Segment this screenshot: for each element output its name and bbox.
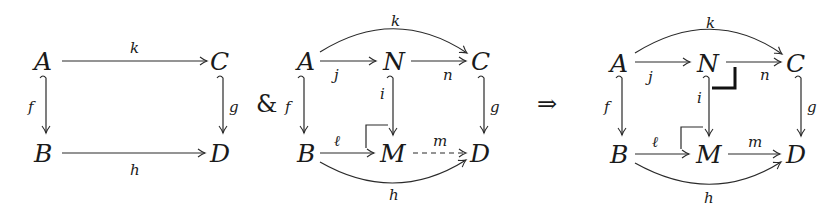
arrow-f	[616, 76, 622, 135]
object-D: D	[785, 140, 806, 169]
label-h: h	[389, 186, 399, 204]
middle-diagram: A N C B M D k j n f i g ℓ m h	[284, 12, 500, 204]
arrow-g	[217, 76, 223, 133]
label-k: k	[391, 12, 400, 30]
label-f: f	[603, 98, 612, 116]
object-D: D	[469, 139, 490, 168]
object-A: A	[608, 49, 628, 78]
label-k: k	[706, 14, 715, 32]
label-i: i	[380, 85, 385, 103]
label-h: h	[704, 189, 714, 207]
object-M: M	[379, 139, 407, 168]
label-i: i	[697, 89, 702, 107]
diagram-canvas: A C B D k f g h & A N C B M D k j n f i …	[0, 0, 837, 218]
object-C: C	[210, 47, 229, 76]
label-n: n	[760, 66, 770, 84]
arrow-i	[703, 76, 709, 136]
label-g: g	[229, 98, 239, 116]
label-n: n	[443, 66, 453, 84]
arrow-g	[795, 76, 801, 136]
left-square: A C B D k f g h	[27, 39, 239, 179]
object-D: D	[209, 139, 230, 168]
object-C: C	[786, 49, 805, 78]
object-A: A	[32, 47, 52, 76]
label-l: ℓ	[334, 132, 340, 150]
label-f: f	[284, 98, 293, 116]
label-m: m	[433, 132, 447, 150]
label-l: ℓ	[652, 133, 658, 151]
right-diagram: A N C B M D k j n f i g ℓ m h	[603, 14, 817, 207]
object-A: A	[295, 47, 315, 76]
label-g: g	[807, 98, 817, 116]
label-g: g	[490, 98, 500, 116]
arrow-f	[40, 76, 46, 133]
label-j: j	[645, 68, 653, 86]
label-k: k	[130, 39, 139, 57]
label-j: j	[331, 66, 339, 84]
implies-symbol: ⇒	[537, 90, 557, 118]
object-B: B	[296, 139, 315, 168]
object-C: C	[471, 47, 490, 76]
arrow-f	[298, 76, 304, 133]
label-m: m	[748, 133, 762, 151]
arrow-g	[478, 76, 484, 133]
object-N: N	[696, 49, 720, 78]
arrow-i	[387, 76, 393, 135]
object-B: B	[33, 139, 52, 168]
object-N: N	[382, 47, 406, 76]
label-f: f	[27, 98, 36, 116]
object-M: M	[695, 140, 723, 169]
label-h: h	[130, 161, 140, 179]
and-symbol: &	[256, 90, 277, 118]
object-B: B	[609, 140, 628, 169]
